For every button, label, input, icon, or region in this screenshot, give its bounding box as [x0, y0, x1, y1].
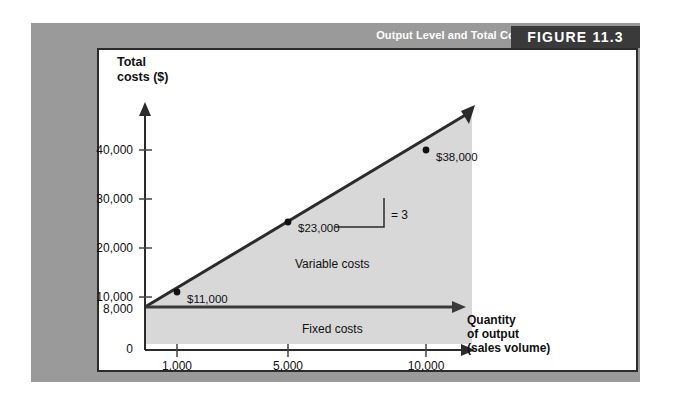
x-tick-label-5000: 5,000	[253, 359, 323, 373]
y-tick-label-0: 0	[75, 342, 133, 356]
y-tick-label-40000: 40,000	[75, 143, 133, 157]
y-tick-label-30000: 30,000	[75, 192, 133, 206]
chart-card: Total costs ($) Quantity of output (sale…	[97, 48, 638, 372]
variable-costs-label: Variable costs	[295, 257, 369, 271]
figure-number-badge: FIGURE 11.3	[511, 26, 640, 48]
x-axis-title-line1: Quantity	[467, 313, 550, 327]
x-axis-title-line2: of output	[467, 327, 550, 341]
x-axis-title-line3: (sales volume)	[467, 341, 550, 355]
x-tick-label-10000: 10,000	[391, 359, 461, 373]
data-label-11000: $11,000	[187, 293, 228, 305]
y-axis-arrowhead	[139, 102, 151, 116]
x-tick-label-1000: 1,000	[142, 359, 212, 373]
y-axis-title: Total costs ($)	[117, 55, 168, 85]
figure-number-label: FIGURE 11.3	[527, 29, 623, 45]
fixed-costs-label: Fixed costs	[302, 322, 363, 336]
y-axis-title-line2: costs ($)	[117, 70, 168, 85]
data-label-38000: $38,000	[436, 151, 478, 163]
data-point-marker	[423, 147, 430, 154]
x-axis-title: Quantity of output (sales volume)	[467, 313, 550, 355]
figure-caption: Output Level and Total Costs	[376, 29, 531, 41]
data-point-marker	[285, 219, 292, 226]
slope-value-label: = 3	[391, 208, 408, 222]
y-tick-label-8000: 8,000	[75, 302, 133, 316]
y-tick-label-20000: 20,000	[75, 241, 133, 255]
y-axis-title-line1: Total	[117, 55, 168, 70]
data-label-23000: $23,000	[298, 222, 340, 234]
data-point-marker	[174, 289, 181, 296]
chart-plot-area	[99, 50, 636, 370]
